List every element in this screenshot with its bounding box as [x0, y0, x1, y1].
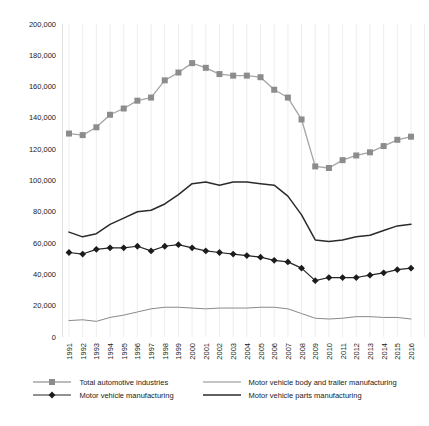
- y-tick-label: 140,000: [29, 113, 56, 122]
- legend-item-motor-vehicle-manufacturing: Motor vehicle manufacturing: [32, 390, 173, 400]
- y-tick-label: 80,000: [33, 207, 56, 216]
- marker-diamond-2007: [284, 258, 291, 265]
- marker-square-2005: [258, 74, 264, 80]
- marker-square-2006: [271, 87, 277, 93]
- marker-square-1993: [93, 124, 99, 130]
- x-tick-label: 2001: [202, 343, 211, 360]
- series-line-motor-vehicle-manufacturing: [69, 245, 411, 281]
- marker-diamond-2015: [394, 266, 401, 273]
- marker-diamond-2013: [367, 272, 374, 279]
- series-line-total-automotive-industries: [69, 63, 411, 168]
- employment-line-chart: 020,00040,00060,00080,000100,000120,0001…: [0, 0, 429, 374]
- legend-label: Total automotive industries: [79, 378, 168, 387]
- marker-square-2014: [381, 143, 387, 149]
- marker-square-2012: [353, 152, 359, 158]
- marker-diamond-1993: [93, 246, 100, 253]
- marker-square-2010: [326, 165, 332, 171]
- marker-diamond-2010: [326, 274, 333, 281]
- y-tick-label: 160,000: [29, 82, 56, 91]
- marker-diamond-1992: [79, 251, 86, 258]
- marker-square-2000: [189, 60, 195, 66]
- marker-diamond-1996: [134, 243, 141, 250]
- marker-square-2003: [230, 73, 236, 79]
- marker-square-1996: [134, 98, 140, 104]
- y-tick-label: 0: [52, 333, 56, 342]
- y-tick-label: 200,000: [29, 20, 56, 29]
- x-tick-label: 1993: [92, 343, 101, 360]
- legend-sample-diamond: [49, 392, 56, 399]
- marker-diamond-1998: [161, 243, 168, 250]
- x-tick-label: 2009: [311, 343, 320, 360]
- legend-line-swatch-icon: [202, 390, 242, 400]
- y-tick-label: 40,000: [33, 270, 56, 279]
- marker-diamond-2002: [216, 249, 223, 256]
- legend-label: Motor vehicle parts manufacturing: [249, 391, 362, 400]
- marker-diamond-2000: [189, 244, 196, 251]
- x-tick-label: 2015: [393, 343, 402, 360]
- marker-diamond-2003: [230, 251, 237, 258]
- marker-square-1998: [162, 77, 168, 83]
- marker-diamond-2005: [257, 254, 264, 261]
- marker-diamond-2006: [271, 257, 278, 264]
- marker-square-1995: [121, 106, 127, 112]
- marker-square-1994: [107, 112, 113, 118]
- marker-square-2013: [367, 149, 373, 155]
- x-tick-label: 2006: [270, 343, 279, 360]
- x-tick-label: 2013: [366, 343, 375, 360]
- marker-square-2002: [216, 71, 222, 77]
- marker-square-1999: [175, 70, 181, 76]
- legend-sample-square: [49, 379, 55, 385]
- legend-label: Motor vehicle body and trailer manufactu…: [249, 378, 397, 387]
- legend-label: Motor vehicle manufacturing: [79, 391, 173, 400]
- series-line-motor-vehicle-body-and-trailer-manufacturing: [69, 307, 411, 321]
- marker-square-2016: [408, 134, 414, 140]
- marker-square-2015: [394, 137, 400, 143]
- x-tick-label: 1998: [161, 343, 170, 360]
- x-tick-label: 1992: [79, 343, 88, 360]
- x-tick-label: 2012: [352, 343, 361, 360]
- marker-diamond-2001: [202, 248, 209, 255]
- x-tick-label: 1996: [133, 343, 142, 360]
- x-tick-label: 2010: [325, 343, 334, 360]
- legend-item-motor-vehicle-body-and-trailer-manufacturing: Motor vehicle body and trailer manufactu…: [202, 377, 397, 387]
- series-line-motor-vehicle-parts-manufacturing: [69, 182, 411, 241]
- x-tick-label: 2005: [257, 343, 266, 360]
- marker-diamond-1991: [66, 249, 73, 256]
- x-tick-label: 2007: [284, 343, 293, 360]
- x-tick-label: 2002: [215, 343, 224, 360]
- marker-square-1997: [148, 95, 154, 101]
- marker-square-2009: [312, 163, 318, 169]
- x-tick-label: 2011: [339, 343, 348, 359]
- marker-square-2007: [285, 95, 291, 101]
- marker-diamond-2016: [408, 265, 415, 272]
- marker-square-1991: [66, 131, 72, 137]
- marker-diamond-2014: [380, 269, 387, 276]
- y-tick-label: 120,000: [29, 145, 56, 154]
- marker-square-2001: [203, 65, 209, 71]
- x-tick-label: 2003: [229, 343, 238, 360]
- marker-diamond-2011: [339, 274, 346, 281]
- x-tick-label: 2014: [380, 343, 389, 360]
- x-tick-label: 1997: [147, 343, 156, 360]
- x-tick-label: 2000: [188, 343, 197, 360]
- marker-diamond-1995: [120, 244, 127, 251]
- y-tick-label: 100,000: [29, 176, 56, 185]
- marker-square-2008: [299, 116, 305, 122]
- x-tick-label: 2008: [298, 343, 307, 360]
- x-tick-label: 1991: [65, 343, 74, 360]
- y-tick-label: 60,000: [33, 239, 56, 248]
- y-tick-label: 180,000: [29, 51, 56, 60]
- marker-diamond-1994: [107, 244, 114, 251]
- marker-diamond-1997: [148, 248, 155, 255]
- marker-diamond-1999: [175, 241, 182, 248]
- marker-diamond-2004: [243, 252, 250, 259]
- x-tick-label: 2004: [243, 343, 252, 360]
- legend-line-swatch-icon: [202, 377, 242, 387]
- marker-square-1992: [80, 132, 86, 138]
- legend-square-swatch-icon: [32, 377, 72, 387]
- chart-figure: 020,00040,00060,00080,000100,000120,0001…: [0, 0, 429, 426]
- x-tick-label: 1995: [120, 343, 129, 360]
- x-tick-label: 1994: [106, 343, 115, 360]
- legend-item-motor-vehicle-parts-manufacturing: Motor vehicle parts manufacturing: [202, 390, 397, 400]
- chart-legend: Total automotive industriesMotor vehicle…: [0, 377, 429, 400]
